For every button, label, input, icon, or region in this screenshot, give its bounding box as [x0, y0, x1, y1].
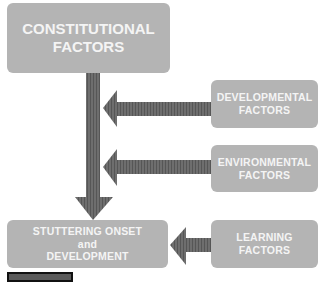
node-label-line: and — [78, 238, 97, 251]
node-label-line: FACTORS — [53, 38, 124, 56]
arrow-constitutional-to-stuttering — [75, 72, 113, 220]
node-label-line: STUTTERING ONSET — [33, 225, 142, 238]
node-label-line: DEVELOPMENTAL — [217, 91, 313, 104]
arrow-developmental — [103, 90, 212, 127]
node-developmental-factors: DEVELOPMENTAL FACTORS — [211, 80, 318, 128]
node-label-line: CONSTITUTIONAL — [22, 20, 155, 38]
node-learning-factors: LEARNING FACTORS — [211, 220, 318, 268]
node-stuttering-onset-development: STUTTERING ONSET and DEVELOPMENT — [7, 220, 168, 268]
node-label-line: FACTORS — [239, 104, 290, 117]
arrow-environmental — [103, 149, 212, 186]
node-environmental-factors: ENVIRONMENTAL FACTORS — [211, 145, 318, 192]
node-label-line: FACTORS — [239, 244, 290, 257]
node-label-line: ENVIRONMENTAL — [218, 156, 311, 169]
figure-label-marker — [7, 272, 73, 282]
node-label-line: LEARNING — [236, 231, 292, 244]
node-label-line: DEVELOPMENT — [46, 250, 128, 263]
arrow-learning — [170, 227, 212, 265]
node-label-line: FACTORS — [239, 169, 290, 182]
node-constitutional-factors: CONSTITUTIONAL FACTORS — [7, 3, 170, 73]
